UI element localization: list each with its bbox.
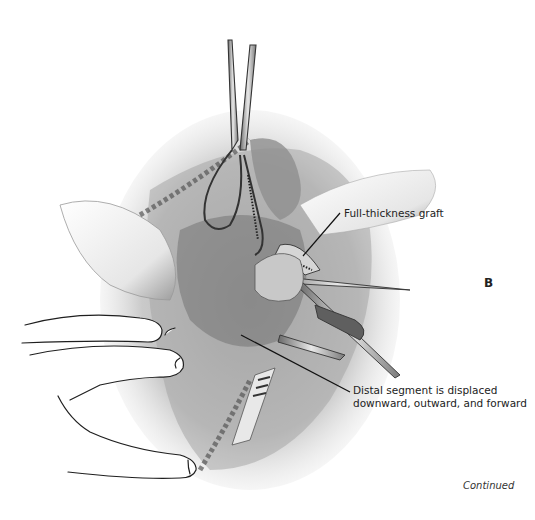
- full-thickness-graft: [255, 254, 303, 302]
- panel-letter: B: [484, 276, 493, 290]
- distal-segment-label-line2: downward, outward, and forward: [353, 397, 527, 410]
- continued-footer: Continued: [463, 480, 514, 491]
- graft-label: Full-thickness graft: [344, 207, 444, 220]
- distal-segment-label-line1: Distal segment is displaced: [353, 384, 527, 397]
- surgical-illustration: [0, 0, 535, 520]
- distal-segment-label: Distal segment is displaced downward, ou…: [353, 384, 527, 410]
